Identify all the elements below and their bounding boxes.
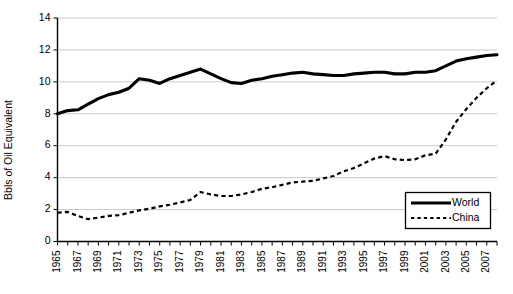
grid-lines	[58, 18, 498, 210]
y-tick-label: 6	[45, 138, 51, 150]
x-tick-label: 1991	[317, 250, 328, 273]
x-tick-label: 1969	[92, 250, 103, 273]
x-tick-label: 1985	[256, 250, 267, 273]
chart-svg: 02468101214 1965196719691971197319751977…	[0, 0, 513, 294]
y-tick-label: 8	[45, 107, 51, 119]
x-tick-label: 1993	[337, 250, 348, 273]
series-line-world	[58, 55, 498, 114]
y-tick-label: 10	[39, 75, 51, 87]
x-tick-label: 1967	[72, 250, 83, 273]
x-tick-label: 1979	[194, 250, 205, 273]
y-axis-title: Bbls of Oil Equivalent	[2, 100, 14, 200]
x-tick-label: 1987	[276, 250, 287, 273]
y-tick-labels: 02468101214	[39, 11, 51, 247]
oil-equivalent-line-chart: 02468101214 1965196719691971197319751977…	[0, 0, 513, 294]
x-tick-label: 1965	[51, 250, 62, 273]
x-tick-label: 1971	[112, 250, 123, 273]
legend-label-china: China	[452, 211, 480, 223]
y-tick-label: 4	[45, 170, 51, 182]
y-tick-label: 14	[39, 11, 51, 23]
x-tick-label: 1995	[358, 250, 369, 273]
y-tick-label: 12	[39, 43, 51, 55]
x-tick-label: 2001	[419, 250, 430, 273]
x-tick-label: 2007	[480, 250, 491, 273]
y-tick-label: 0	[45, 234, 51, 246]
x-tick-label: 1981	[215, 250, 226, 273]
x-tick-label: 1997	[378, 250, 389, 273]
x-tick-label: 2005	[460, 250, 471, 273]
x-tick-label: 1975	[153, 250, 164, 273]
x-tick-labels: 1965196719691971197319751977197919811983…	[51, 250, 491, 273]
x-tick-label: 2003	[440, 250, 451, 273]
x-tick-label: 1999	[399, 250, 410, 273]
x-tick-label: 1989	[296, 250, 307, 273]
x-tick-label: 1973	[133, 250, 144, 273]
y-tick-label: 2	[45, 202, 51, 214]
legend-label-world: World	[452, 196, 479, 208]
x-tick-label: 1977	[174, 250, 185, 273]
legend: World China	[406, 193, 491, 229]
x-tick-label: 1983	[235, 250, 246, 273]
